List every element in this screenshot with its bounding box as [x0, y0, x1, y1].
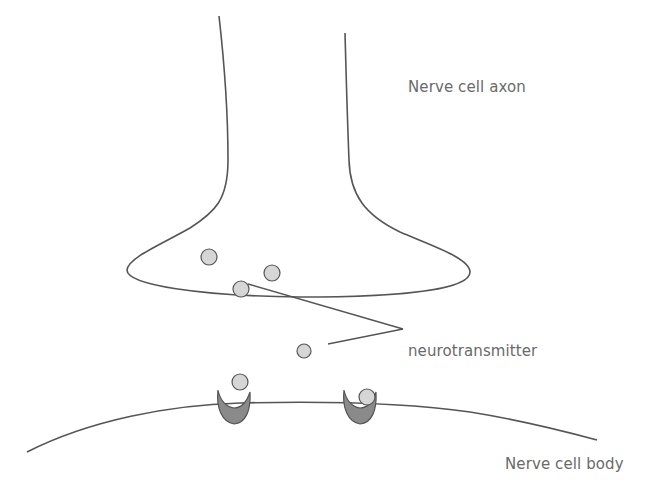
- synapse-diagram: [0, 0, 659, 494]
- neurotransmitter-molecule: [264, 265, 280, 281]
- cell-body-label: Nerve cell body: [505, 455, 624, 473]
- axon-label: Nerve cell axon: [408, 78, 526, 96]
- bound-neurotransmitter-molecule: [359, 389, 375, 405]
- neurotransmitter-molecule: [201, 249, 217, 265]
- axon-terminal-outline: [127, 16, 470, 297]
- neurotransmitter-molecule: [297, 344, 311, 358]
- neurotransmitter-label: neurotransmitter: [408, 342, 537, 360]
- neurotransmitter-molecule: [233, 281, 249, 297]
- pointer-line-upper: [248, 284, 403, 329]
- pointer-line-lower: [328, 329, 403, 344]
- cell-body-membrane: [27, 402, 597, 452]
- receptor-left: [218, 390, 251, 424]
- neurotransmitter-molecule: [232, 374, 248, 390]
